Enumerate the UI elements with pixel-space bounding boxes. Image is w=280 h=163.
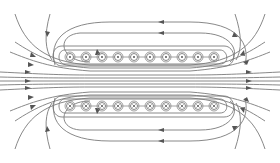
conductor-out-icon xyxy=(177,52,187,62)
conductor-out-icon xyxy=(161,52,171,62)
interior-field-lines xyxy=(0,72,280,90)
conductor-out-icon xyxy=(193,52,203,62)
conductor-out-icon xyxy=(113,52,123,62)
conductor-in-icon xyxy=(81,101,91,111)
conductor-out-icon xyxy=(65,52,75,62)
fan-field-lines xyxy=(10,14,270,149)
conductor-out-icon xyxy=(97,52,107,62)
bottom-conductor-row xyxy=(65,101,219,111)
conductor-in-icon xyxy=(209,101,219,111)
solenoid-field-diagram xyxy=(0,0,280,163)
conductor-in-icon xyxy=(97,101,107,111)
conductor-in-icon xyxy=(193,101,203,111)
conductor-out-icon xyxy=(209,52,219,62)
conductor-in-icon xyxy=(145,101,155,111)
top-conductor-row xyxy=(65,52,219,62)
conductor-in-icon xyxy=(65,101,75,111)
conductor-out-icon xyxy=(129,52,139,62)
conductor-out-icon xyxy=(81,52,91,62)
conductor-in-icon xyxy=(129,101,139,111)
conductor-in-icon xyxy=(161,101,171,111)
conductor-in-icon xyxy=(113,101,123,111)
conductor-in-icon xyxy=(177,101,187,111)
conductor-out-icon xyxy=(145,52,155,62)
